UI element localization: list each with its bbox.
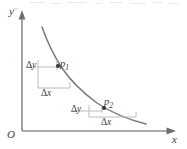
x-axis-label: x [172,134,177,145]
origin-label: O [7,129,15,140]
delta-y-variable: y [77,104,81,114]
scan-artifact [13,2,179,10]
x-axis [22,128,176,135]
point-p2-subscript: 2 [109,101,113,110]
delta-y-label-p2: Δy [71,105,81,115]
figure-canvas [0,0,187,149]
delta-x-label-p1: Δx [41,89,51,99]
delta-x-label-p2: Δx [101,118,111,128]
point-p1-subscript: 1 [65,63,69,72]
curve [42,27,146,124]
delta-x-variable: x [107,117,111,127]
delta-y-label-p1: Δy [26,61,36,71]
delta-y-variable: y [32,60,36,70]
point-p1-label: p1 [60,59,69,72]
point-p2-label: p2 [104,97,113,110]
y-axis [19,10,26,131]
y-axis-label: y [9,6,14,17]
figure-container: y x O Δy Δx Δy Δx p1 p2 [0,0,187,149]
delta-x-variable: x [47,88,51,98]
